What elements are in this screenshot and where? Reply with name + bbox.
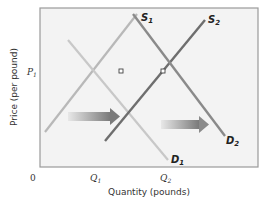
q2-tick-label: Q2 bbox=[160, 173, 171, 184]
equilibrium-point-1 bbox=[119, 69, 123, 73]
supply-demand-chart: S1 S2 D1 D2 P1 0 Q1 Q2 Quantity (pounds)… bbox=[0, 0, 265, 208]
q1-tick-label: Q1 bbox=[90, 173, 101, 184]
origin-label: 0 bbox=[30, 173, 36, 183]
equilibrium-point-2 bbox=[161, 69, 165, 73]
y-axis-title: Price (per pound) bbox=[9, 48, 19, 126]
p1-tick-label: P1 bbox=[26, 67, 37, 78]
x-axis-title: Quantity (pounds) bbox=[108, 187, 190, 197]
